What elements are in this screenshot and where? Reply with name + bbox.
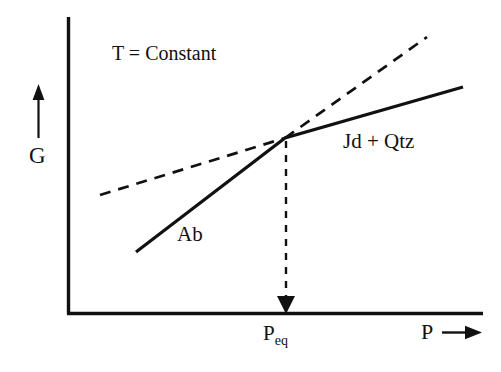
equilibrium-pressure-base: P — [263, 321, 275, 345]
arrow-up-icon — [33, 84, 45, 138]
y-axis-label: G — [29, 144, 46, 167]
equilibrium-pressure-label: Peq — [263, 323, 288, 348]
x-axis-label: P — [421, 321, 433, 343]
arrow-right-icon — [442, 326, 482, 339]
equilibrium-drop-line — [277, 141, 295, 314]
curve-label-jd-qtz: Jd + Qtz — [343, 131, 414, 152]
arrow-down-icon — [277, 296, 295, 314]
equilibrium-pressure-subscript: eq — [275, 333, 289, 348]
series-dashed-ab-extension — [285, 37, 427, 138]
curve-label-ab: Ab — [177, 224, 203, 245]
series-dashed-jd-qtz-extension — [100, 138, 285, 195]
temperature-condition-label: T = Constant — [112, 43, 216, 63]
free-energy-pressure-diagram: T = Constant G P Jd + Qtz Ab Peq — [0, 0, 501, 372]
plot-canvas — [0, 0, 501, 372]
